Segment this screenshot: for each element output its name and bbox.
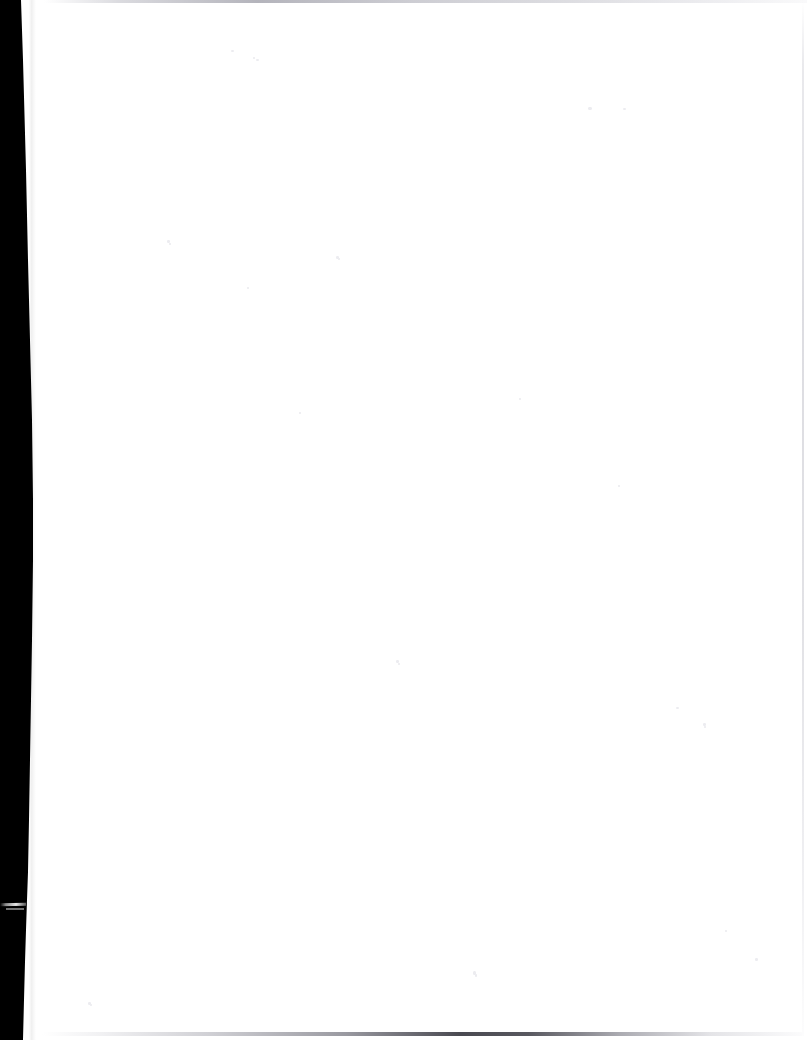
scanner-gutter-nick <box>0 903 26 907</box>
scanner-gutter-nick-secondary <box>6 908 24 910</box>
page-edge-line-right <box>802 2 804 1036</box>
page-body-text <box>60 40 780 1000</box>
page-edge-line-bottom <box>42 1032 802 1036</box>
scanned-page <box>0 0 807 1040</box>
page-edge-line-top <box>44 0 807 3</box>
